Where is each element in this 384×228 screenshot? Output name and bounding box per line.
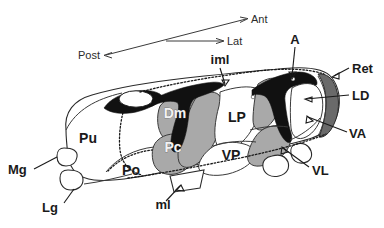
post-arrowhead (104, 53, 112, 59)
callout-label-lg: Lg (42, 200, 58, 215)
callout-label-ld: LD (352, 88, 369, 103)
va-protrusion (291, 143, 312, 163)
arrowhead-ret (332, 73, 339, 79)
vl-protrusion (263, 155, 289, 176)
thalamus-body (57, 68, 339, 192)
callout-label-vl: VL (312, 163, 329, 178)
callout-label-iml: iml (211, 52, 230, 67)
posterior-white-oval (119, 91, 153, 107)
callout-label-a: A (290, 32, 300, 47)
orientation-key: Ant Lat Post (78, 13, 268, 61)
lg-protrusion (60, 170, 83, 190)
callout-label-va: VA (349, 126, 367, 141)
iml-white-marker (251, 95, 255, 99)
leader-lg (64, 189, 74, 203)
axis-label-ant: Ant (251, 13, 268, 25)
region-label-dm: Dm (164, 105, 187, 121)
region-label-po: Po (122, 162, 140, 178)
region-label-lp: LP (228, 109, 246, 125)
axis-label-lat: Lat (227, 35, 242, 47)
leader-mg (34, 157, 57, 169)
diagram-canvas: Ant Lat Post (0, 0, 384, 228)
callout-label-mg: Mg (8, 162, 27, 177)
callout-label-ret: Ret (352, 61, 374, 76)
mg-protrusion (57, 148, 77, 166)
callout-label-ml: ml (155, 197, 170, 212)
axis-label-post: Post (78, 49, 100, 61)
ant-post-axis-line (106, 19, 246, 55)
region-label-vp: VP (222, 147, 241, 163)
region-label-pu: Pu (79, 130, 97, 146)
region-label-pc: Pc (164, 139, 181, 155)
thalamus-diagram-figure: Ant Lat Post (0, 0, 384, 228)
